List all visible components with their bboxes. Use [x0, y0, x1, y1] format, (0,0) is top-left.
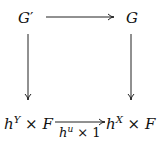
bottom-arrow-label: hu × 1 [59, 126, 101, 139]
h-symbol: h [4, 115, 14, 133]
superscript-Y: Y [14, 114, 21, 125]
node-hY-times-F: hY × F [4, 117, 53, 132]
node-g-prime-base: G [18, 9, 30, 27]
superscript-X: X [116, 114, 123, 125]
label-times: × [77, 125, 88, 140]
node-g: G [126, 11, 138, 26]
factor-F: F [42, 115, 52, 133]
times-symbol: × [128, 115, 141, 133]
prime-mark: ′ [30, 9, 33, 27]
factor-F: F [145, 115, 155, 133]
node-hX-times-F: hX × F [106, 117, 155, 132]
label-superscript-u: u [67, 124, 73, 134]
node-g-prime: G′ [18, 11, 33, 26]
times-symbol: × [25, 115, 38, 133]
h-symbol: h [106, 115, 116, 133]
node-g-base: G [126, 9, 138, 27]
label-one: 1 [92, 125, 100, 140]
